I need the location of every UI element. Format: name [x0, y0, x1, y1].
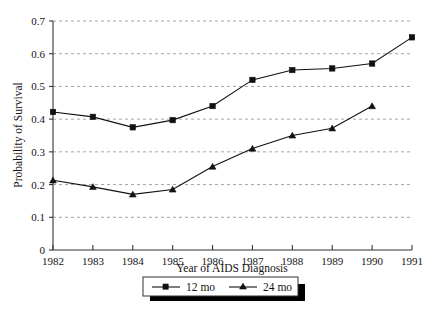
x-axis-title: Year of AIDS Diagnosis — [176, 262, 288, 275]
data-point-square — [409, 35, 414, 40]
series-24-mo — [50, 103, 376, 197]
survival-probability-line-chart: 00.10.20.30.40.50.60.7 19821983198419851… — [0, 0, 435, 319]
data-point-square — [290, 67, 295, 72]
y-tick-label: 0.7 — [31, 15, 45, 27]
legend: 12 mo 24 mo — [143, 277, 305, 301]
x-tick-label: 1991 — [401, 255, 423, 267]
data-point-square — [369, 61, 374, 66]
data-point-square — [90, 114, 95, 119]
y-tick-label: 0.5 — [31, 80, 45, 92]
data-point-square — [330, 66, 335, 71]
data-point-square — [50, 109, 55, 114]
x-tick-label: 1984 — [122, 255, 145, 267]
legend-label-12-mo: 12 mo — [186, 281, 215, 293]
figure-container: 00.10.20.30.40.50.60.7 19821983198419851… — [0, 0, 435, 319]
data-point-triangle — [369, 103, 376, 109]
data-point-triangle — [50, 177, 57, 183]
data-point-square — [210, 103, 215, 108]
data-point-square — [170, 117, 175, 122]
y-tick-label: 0.1 — [31, 211, 45, 223]
y-tick-label: 0.4 — [31, 113, 45, 125]
y-tick-label: 0.6 — [31, 48, 45, 60]
data-point-square — [130, 125, 135, 130]
series-12-mo — [50, 35, 414, 130]
grid-lines — [53, 21, 412, 217]
y-axis: 00.10.20.30.40.50.60.7 — [31, 15, 53, 256]
x-tick-label: 1983 — [82, 255, 105, 267]
y-tick-label: 0.3 — [31, 146, 45, 158]
y-tick-label: 0.2 — [31, 179, 45, 191]
data-point-triangle — [329, 125, 336, 131]
y-axis-title: Probability of Survival — [12, 82, 25, 187]
legend-marker-square — [163, 284, 168, 289]
x-tick-label: 1989 — [321, 255, 344, 267]
data-point-triangle — [169, 186, 176, 192]
data-point-square — [250, 77, 255, 82]
data-point-triangle — [209, 163, 216, 169]
x-tick-label: 1990 — [361, 255, 384, 267]
legend-label-24-mo: 24 mo — [263, 281, 292, 293]
data-series-group — [50, 35, 415, 197]
x-tick-label: 1982 — [42, 255, 64, 267]
